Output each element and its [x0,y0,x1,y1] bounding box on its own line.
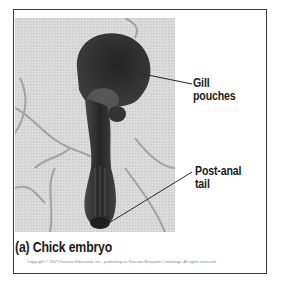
label-post-anal-tail-line2: tail [195,178,241,191]
label-gill-pouches: Gill pouches [193,77,236,103]
label-gill-pouches-line2: pouches [193,90,236,103]
panel-caption: (a) Chick embryo [15,239,112,255]
label-post-anal-tail: Post-anal tail [195,165,241,191]
embryo-illustration [15,18,175,232]
copyright-notice: Copyright © 2007 Pearson Education, Inc.… [27,259,217,264]
chick-embryo-photo [15,18,175,232]
